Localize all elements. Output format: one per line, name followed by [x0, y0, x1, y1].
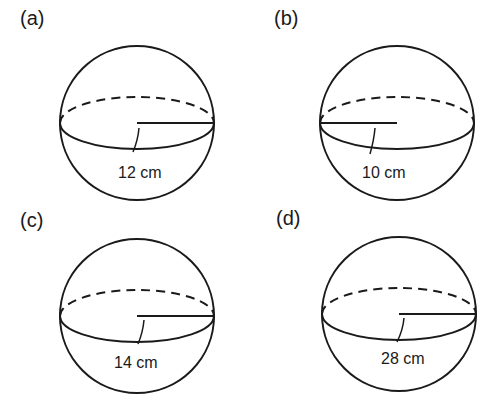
spheres-diagram: 12 cm 10 cm 14 cm 28 cm	[0, 0, 491, 417]
radius-label-d: 28 cm	[381, 350, 425, 367]
radius-label-b: 10 cm	[362, 164, 406, 181]
radius-label-c: 14 cm	[114, 354, 158, 371]
radius-label-a: 12 cm	[118, 164, 162, 181]
sphere-d	[322, 237, 476, 391]
